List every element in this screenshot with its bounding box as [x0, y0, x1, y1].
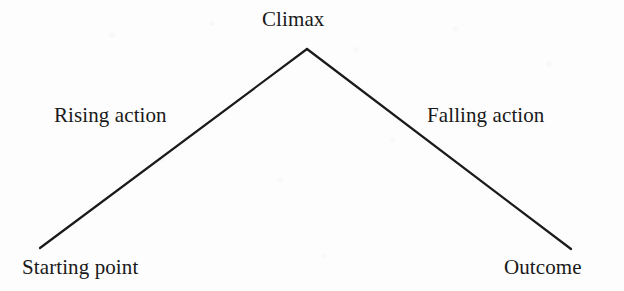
falling-action-label: Falling action	[427, 105, 544, 126]
starting-point-label: Starting point	[22, 257, 138, 278]
outcome-label: Outcome	[504, 257, 582, 278]
story-arc-lines	[0, 0, 624, 291]
rising-action-line	[40, 49, 307, 248]
story-arc-diagram: Climax Rising action Falling action Star…	[0, 0, 624, 291]
rising-action-label: Rising action	[54, 105, 167, 126]
climax-label: Climax	[262, 9, 324, 30]
falling-action-line	[307, 49, 571, 249]
